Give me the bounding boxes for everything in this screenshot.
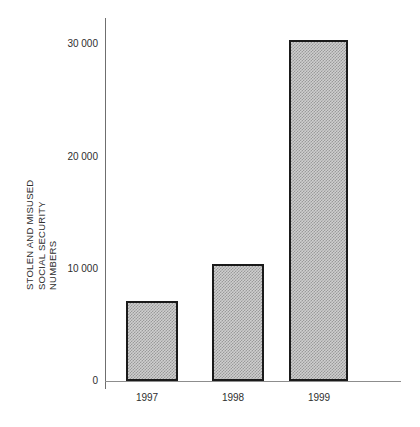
x-axis-label-1999: 1999 [272,392,366,404]
plot-area [105,18,401,381]
y-tick-label-10000: 10 000 [34,264,98,274]
bar-1999 [289,40,348,381]
y-axis-title-line-2: SOCIAL SECURITY [36,201,48,290]
bar-1997 [126,301,178,381]
y-tick-label-0: 0 [34,376,98,386]
x-axis-label-1998: 1998 [186,392,280,404]
x-axis-line [105,381,401,382]
x-axis-label-1997: 1997 [100,392,194,404]
bar-chart: STOLEN AND MISUSED SOCIAL SECURITY NUMBE… [0,0,420,427]
y-tick-label-20000: 20 000 [34,152,98,162]
y-tick-label-30000: 30 000 [34,39,98,49]
bar-1998 [212,264,264,381]
